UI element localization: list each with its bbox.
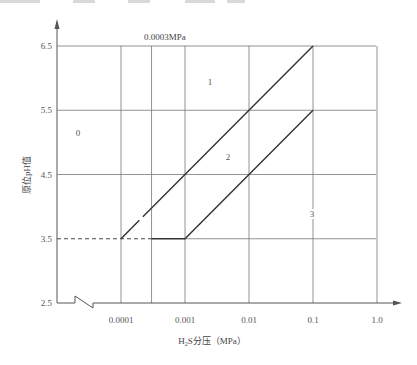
x-tick-label: 0.1 <box>307 315 318 325</box>
region-label-3: 3 <box>310 209 315 219</box>
region-label-2: 2 <box>226 152 231 162</box>
annotation-0.0003mpa: 0.0003MPa <box>144 32 186 42</box>
region-label-0: 0 <box>76 128 81 138</box>
grid-lines <box>57 46 377 303</box>
axes <box>55 19 403 308</box>
y-tick-label: 4.5 <box>41 170 53 180</box>
y-tick-label: 3.5 <box>41 234 53 244</box>
x-axis-arrow-icon <box>393 301 402 306</box>
x-tick-label: 0.001 <box>175 315 195 325</box>
y-tick-label: 6.5 <box>41 41 53 51</box>
series-line <box>121 46 313 239</box>
x-tick-label: 1.0 <box>371 315 383 325</box>
x-tick-label: 0.01 <box>241 315 257 325</box>
x-tick-label: 0.0001 <box>109 315 134 325</box>
y-axis-title: 原位pH值 <box>21 156 32 194</box>
y-axis-arrow-icon <box>55 19 60 29</box>
x-axis-title: H2S分压（MPa） <box>178 336 246 347</box>
y-tick-label: 2.5 <box>41 298 53 308</box>
region-labels: 0123 <box>76 77 316 219</box>
x-axis-line-with-break <box>57 296 395 308</box>
ph-vs-h2s-chart: 3.54.55.56.52.50.00010.0010.010.11.0 012… <box>0 0 417 365</box>
y-tick-label: 5.5 <box>41 105 53 115</box>
region-label-1: 1 <box>208 77 213 87</box>
